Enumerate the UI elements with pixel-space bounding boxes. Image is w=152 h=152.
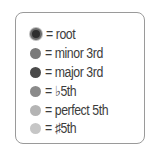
legend-label: = perfect 5th	[45, 102, 108, 118]
perfect-5th-dot-icon	[30, 105, 41, 116]
legend-item-sharp-5th: = ♯5th	[30, 120, 81, 136]
legend-item-root: = root	[30, 26, 79, 42]
legend-item-major-3rd: = major 3rd	[30, 64, 111, 80]
legend-item-minor-3rd: = minor 3rd	[30, 45, 111, 61]
legend-label: = root	[46, 26, 75, 42]
sharp-5th-dot-icon	[30, 123, 41, 134]
legend-label: = major 3rd	[45, 64, 103, 80]
root-dot-icon	[30, 28, 42, 40]
legend-item-perfect-5th: = perfect 5th	[30, 102, 117, 118]
minor-3rd-dot-icon	[30, 48, 41, 59]
legend-item-flat-5th: = ♭5th	[30, 83, 81, 99]
legend-label: = ♭5th	[45, 83, 76, 99]
legend-label: = ♯5th	[45, 120, 76, 136]
legend-label: = minor 3rd	[45, 45, 103, 61]
flat-5th-dot-icon	[30, 86, 41, 97]
major-3rd-dot-icon	[30, 67, 41, 78]
